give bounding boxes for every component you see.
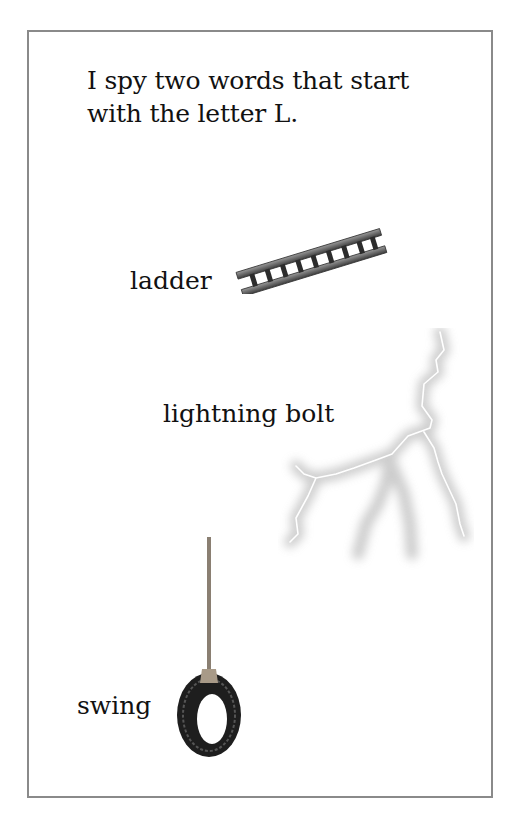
prompt-line-1: I spy two words that start bbox=[87, 64, 467, 97]
ladder-label: ladder bbox=[130, 266, 212, 296]
tire-swing-icon bbox=[172, 537, 252, 759]
lightning-bolt-icon bbox=[278, 328, 474, 578]
ladder-icon bbox=[232, 228, 390, 294]
prompt-text: I spy two words that start with the lett… bbox=[87, 64, 467, 130]
swing-label: swing bbox=[77, 691, 151, 721]
prompt-line-2: with the letter L. bbox=[87, 97, 467, 130]
